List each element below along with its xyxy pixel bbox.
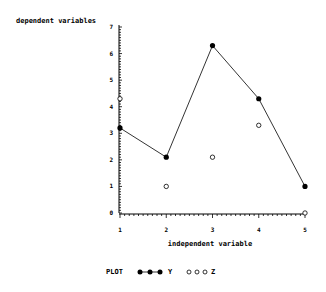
- x-tick-label: 3: [211, 226, 215, 233]
- legend-open-circle-icon: [187, 270, 191, 274]
- data-point-y: [256, 96, 261, 101]
- legend-filled-circle-icon: [158, 270, 163, 275]
- data-point-y: [210, 43, 215, 48]
- chart: dependent variables 0123456712345 indepe…: [0, 0, 326, 292]
- data-point-z: [210, 155, 214, 159]
- y-tick-label: 5: [109, 76, 113, 83]
- legend: PLOT Y Z: [106, 268, 215, 276]
- legend-label-y: Y: [168, 268, 173, 276]
- y-tick-label: 1: [109, 182, 113, 189]
- y-tick-label: 0: [109, 209, 113, 216]
- series-line-y: [120, 46, 305, 187]
- data-point-y: [117, 125, 122, 130]
- data-point-y: [164, 155, 169, 160]
- axes: 0123456712345: [109, 23, 307, 233]
- legend-marker-z: [187, 270, 207, 274]
- x-tick-label: 1: [118, 226, 122, 233]
- legend-open-circle-icon: [195, 270, 199, 274]
- legend-filled-circle-icon: [148, 270, 153, 275]
- y-axis-label: dependent variables: [16, 17, 96, 25]
- legend-label-z: Z: [211, 268, 215, 276]
- y-tick-label: 2: [109, 156, 113, 163]
- y-tick-label: 7: [109, 23, 113, 30]
- x-axis-label: independent variable: [168, 240, 252, 248]
- x-tick-label: 4: [257, 226, 261, 233]
- legend-title: PLOT: [106, 268, 123, 276]
- x-tick-label: 2: [164, 226, 168, 233]
- data-point-z: [118, 97, 122, 101]
- legend-open-circle-icon: [203, 270, 207, 274]
- legend-filled-circle-icon: [138, 270, 143, 275]
- legend-marker-y: [138, 270, 163, 275]
- y-tick-label: 3: [109, 129, 113, 136]
- data-point-z: [257, 123, 261, 127]
- y-tick-label: 6: [109, 50, 113, 57]
- data-point-z: [303, 211, 307, 215]
- plot-series: [117, 43, 307, 215]
- y-tick-label: 4: [109, 103, 113, 110]
- data-point-y: [302, 184, 307, 189]
- data-point-z: [164, 184, 168, 188]
- x-tick-label: 5: [303, 226, 307, 233]
